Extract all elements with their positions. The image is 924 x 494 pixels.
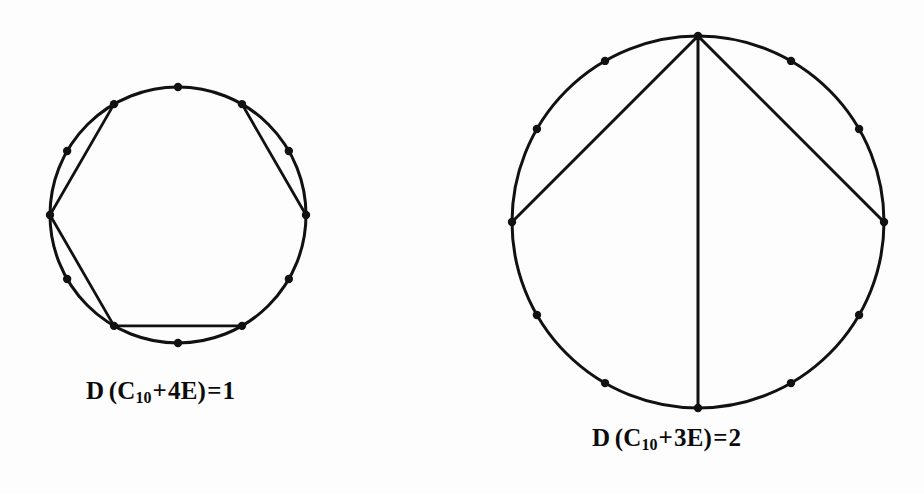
circle-diagram-4E-vertex-7 (110, 322, 118, 330)
circle-diagram-3E-vertex-3 (880, 218, 888, 226)
circle-diagram-3E-vertex-4 (855, 311, 863, 319)
caption-right-equals: = (712, 424, 728, 452)
circle-diagram-4E-chord-0 (242, 104, 306, 215)
circle-diagram-3E-vertex-8 (533, 311, 541, 319)
circle-diagram-4E-chord-3 (50, 215, 114, 326)
caption-right-term: 3E (674, 424, 704, 451)
caption-right-value: 2 (729, 424, 742, 451)
circle-diagram-3E-vertex-7 (601, 379, 609, 387)
caption-right-subscript: 10 (642, 436, 658, 453)
circle-diagram-4E-vertex-0 (174, 83, 182, 91)
circle-diagram-4E-vertex-3 (302, 211, 310, 219)
caption-left-subscript: 10 (136, 389, 152, 406)
caption-right: D(C10+3E)=2 (592, 424, 741, 454)
circle-diagram-3E-vertex-11 (601, 57, 609, 65)
caption-left-equals: = (206, 377, 222, 405)
circle-diagram-4E-vertex-6 (174, 339, 182, 347)
figure-right-group (508, 32, 888, 412)
caption-left-value: 1 (223, 377, 236, 404)
circle-diagram-4E-vertex-4 (285, 275, 293, 283)
circle-diagram-4E-vertex-10 (63, 147, 71, 155)
circle-diagram-3E-vertex-0 (694, 32, 702, 40)
circle-diagram-4E-circle (50, 87, 306, 343)
caption-right-base: C (623, 424, 641, 451)
caption-right-plus: + (658, 424, 674, 452)
figure-left-group (46, 83, 310, 347)
caption-left-plus: + (152, 377, 168, 405)
caption-left-base: C (117, 377, 135, 404)
circle-diagram-4E-vertex-11 (110, 100, 118, 108)
figure-canvas (0, 0, 924, 494)
circle-diagram-3E-vertex-10 (533, 125, 541, 133)
circle-diagram-3E-vertex-6 (694, 404, 702, 412)
circle-diagram-4E-chord-1 (50, 104, 114, 215)
caption-left: D(C10+4E)=1 (86, 377, 235, 407)
circle-diagram-3E-vertex-2 (855, 125, 863, 133)
caption-left-close-paren: ) (198, 377, 207, 404)
circle-diagram-4E-vertex-2 (285, 147, 293, 155)
circle-diagram-3E-vertex-5 (787, 379, 795, 387)
circle-diagram-4E-vertex-1 (238, 100, 246, 108)
circle-diagram-3E-vertex-9 (508, 218, 516, 226)
caption-right-close-paren: ) (704, 424, 713, 451)
caption-left-term: 4E (168, 377, 198, 404)
caption-left-prefix: D (86, 377, 104, 404)
circle-diagram-4E-vertex-5 (238, 322, 246, 330)
circle-diagram-3E-vertex-1 (787, 57, 795, 65)
circle-diagram-4E-vertex-9 (46, 211, 54, 219)
caption-right-prefix: D (592, 424, 610, 451)
circle-diagram-4E-vertex-8 (63, 275, 71, 283)
